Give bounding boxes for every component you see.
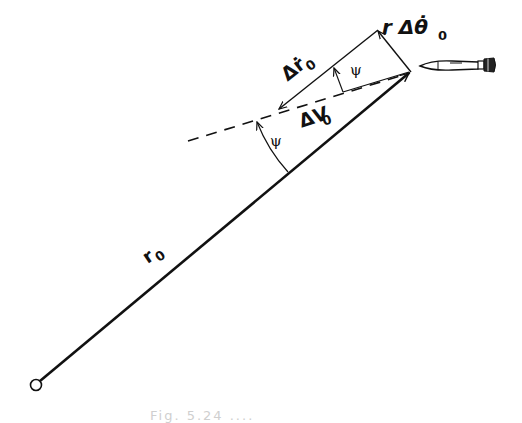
- inner-rect-side: [334, 68, 343, 92]
- range-vector-r0: [40, 73, 409, 381]
- svg-text:Δṙ: Δṙ: [276, 52, 309, 85]
- svg-text:0: 0: [438, 28, 447, 43]
- svg-text:r Δθ̇: r Δθ̇: [382, 15, 428, 39]
- figure-caption: Fig. 5.24 ....: [150, 408, 254, 423]
- label-psi-lower: ψ: [270, 132, 282, 150]
- label-r-delta-theta-dot: r Δθ̇ 0: [382, 15, 447, 43]
- origin-point: [31, 380, 42, 391]
- missile-icon: [420, 58, 496, 72]
- label-psi-upper: ψ: [350, 61, 362, 79]
- label-r0: r 0: [138, 239, 168, 270]
- delta-v-dashed-line: [188, 73, 410, 141]
- svg-text:0: 0: [320, 112, 333, 129]
